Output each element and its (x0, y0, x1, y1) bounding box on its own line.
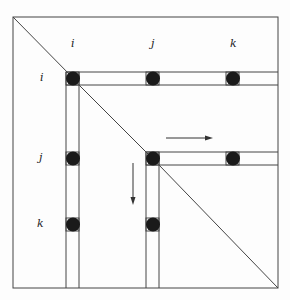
diagram: i j k i j k (0, 0, 290, 300)
dot-jj (146, 152, 160, 166)
matrix-figure (0, 0, 290, 300)
dot-ij (146, 72, 160, 86)
col-label-j: j (151, 37, 154, 50)
diagonal-segment (13, 17, 73, 78)
col-label-k: k (230, 37, 237, 50)
row-label-j: j (39, 151, 42, 164)
arrow-down-icon (131, 163, 136, 205)
dot-jk (226, 152, 240, 166)
dot-ki (66, 218, 80, 232)
dot-ik (226, 72, 240, 86)
row-label-i: i (40, 71, 44, 84)
col-label-i: i (71, 37, 75, 50)
arrow-right-icon (166, 136, 213, 141)
dot-ji (66, 152, 80, 166)
dot-kj (146, 218, 160, 232)
diagonal-segment (79, 85, 152, 158)
dot-ii (66, 72, 80, 86)
diagonal-segment (159, 165, 278, 288)
row-label-k: k (37, 217, 44, 230)
